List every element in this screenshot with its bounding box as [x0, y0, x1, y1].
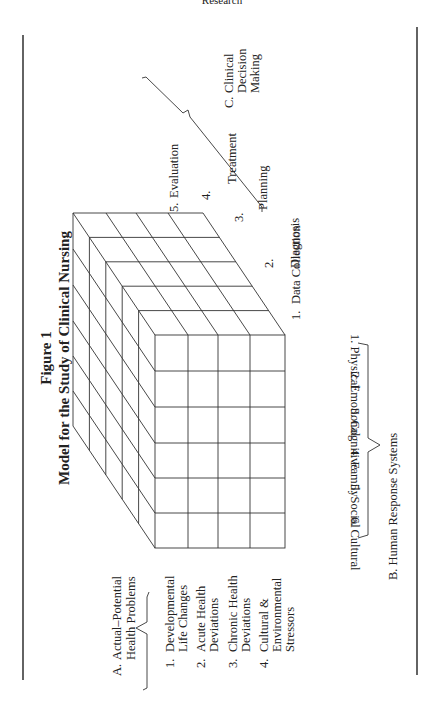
figure-number: Figure 1	[38, 331, 54, 384]
svg-text:C.: C.	[222, 97, 236, 108]
svg-text:Evaluation: Evaluation	[167, 143, 181, 198]
axis-b-items: 1. Physical 2. Emotional 3. Cognitive 4.…	[348, 334, 362, 571]
svg-text:Decision: Decision	[235, 48, 249, 93]
cube-front-face	[155, 335, 285, 548]
svg-text:Planning: Planning	[256, 165, 270, 210]
svg-text:3.: 3.	[232, 213, 246, 222]
axis-b-heading: B. Human Response Systems	[386, 433, 400, 580]
svg-text:Diagnosis: Diagnosis	[288, 218, 302, 268]
svg-text:1.: 1.	[163, 659, 177, 668]
axis-a-heading: A. Actual–Potential Health Problems	[110, 575, 138, 676]
axis-c-items: 1. Data Collection 2. Diagnosis 3. Plann…	[167, 133, 303, 320]
svg-text:Chronic Health: Chronic Health	[226, 575, 240, 652]
svg-text:6. Cultural: 6. Cultural	[348, 517, 362, 571]
figure-caption: Model for the Study of Clinical Nursing	[56, 231, 72, 485]
figure-canvas: Research Figure 1 Model for the Study of…	[0, 0, 429, 715]
axis-a-item: 2. Acute Health Deviations	[194, 585, 221, 668]
svg-text:Acute Health: Acute Health	[194, 585, 208, 652]
axis-c-heading: C. Clinical Decision Making	[222, 48, 262, 108]
running-header: Research	[202, 0, 243, 6]
svg-text:4.: 4.	[257, 659, 271, 668]
svg-text:Health Problems: Health Problems	[124, 576, 138, 660]
axis-a-item: 3. Chronic Health Deviations	[226, 575, 253, 668]
svg-text:Developmental: Developmental	[163, 575, 177, 652]
svg-text:Stressors: Stressors	[283, 607, 297, 652]
axis-b-item: 6. Cultural	[348, 517, 362, 571]
svg-text:A.: A.	[110, 664, 124, 676]
svg-text:3.: 3.	[226, 659, 240, 668]
svg-text:5.: 5.	[167, 203, 181, 212]
svg-text:Life Changes: Life Changes	[176, 585, 190, 652]
svg-text:Making: Making	[248, 53, 262, 93]
model-cube	[73, 213, 285, 548]
svg-text:Deviations: Deviations	[239, 598, 253, 652]
axis-a-item: 4. Cultural & Environmental Stressors	[257, 577, 297, 668]
axis-c-item: 5. Evaluation	[167, 143, 181, 212]
svg-text:1.: 1.	[289, 311, 303, 320]
axis-c-item: 2. Diagnosis	[262, 218, 302, 268]
axis-a-item: 1. Developmental Life Changes	[163, 575, 190, 668]
svg-text:Clinical: Clinical	[222, 53, 236, 93]
svg-text:Environmental: Environmental	[270, 577, 284, 652]
axis-c-item: 4. Treatment	[199, 133, 239, 200]
svg-text:B. Human Response Systems: B. Human Response Systems	[386, 433, 400, 580]
svg-text:2.: 2.	[194, 659, 208, 668]
axis-a-items: 1. Developmental Life Changes 2. Acute H…	[163, 575, 297, 668]
svg-text:Deviations: Deviations	[207, 598, 221, 652]
svg-text:4.: 4.	[199, 191, 213, 200]
figure-title: Figure 1 Model for the Study of Clinical…	[38, 231, 72, 485]
svg-text:Actual–Potential: Actual–Potential	[110, 575, 124, 660]
svg-text:Cultural &: Cultural &	[257, 598, 271, 652]
svg-text:2.: 2.	[262, 259, 276, 268]
